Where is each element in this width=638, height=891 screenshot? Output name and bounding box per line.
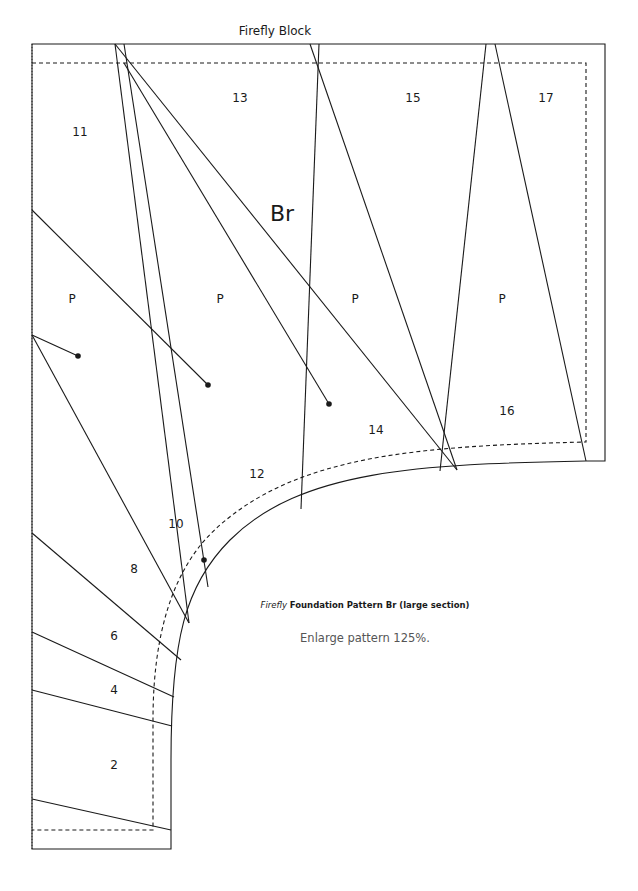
piece-label-2: 2 <box>110 758 118 772</box>
pleat-dot <box>75 353 81 359</box>
piece-label-8: 8 <box>130 562 138 576</box>
pleat-dot <box>326 401 332 407</box>
pleat-label: P <box>68 292 75 306</box>
piece-label-11: 11 <box>72 125 87 139</box>
seam-allowance-line <box>32 63 586 830</box>
caption-bold: Foundation Pattern Br (large section) <box>290 600 470 610</box>
piece-label-14: 14 <box>368 423 383 437</box>
enlarge-note: Enlarge pattern 125%. <box>300 631 430 645</box>
piece-label-16: 16 <box>499 404 514 418</box>
pleat-label: P <box>351 292 358 306</box>
pleat-label: P <box>498 292 505 306</box>
piece-label-4: 4 <box>110 683 118 697</box>
section-label: Br <box>270 201 294 226</box>
block-title: Firefly Block <box>215 24 335 38</box>
pleat-label: P <box>216 292 223 306</box>
piece-label-12: 12 <box>249 467 264 481</box>
pleat-dot <box>201 557 207 563</box>
piece-label-10: 10 <box>168 517 183 531</box>
piece-label-17: 17 <box>538 91 553 105</box>
pattern-caption: Firefly Foundation Pattern Br (large sec… <box>261 600 470 610</box>
pleat-dot <box>205 382 211 388</box>
piece-label-15: 15 <box>405 91 420 105</box>
piece-label-13: 13 <box>232 91 247 105</box>
caption-italic: Firefly <box>261 600 288 610</box>
outer-cut-line <box>32 44 605 849</box>
foundation-pattern-drawing <box>0 0 638 891</box>
piece-label-6: 6 <box>110 629 118 643</box>
